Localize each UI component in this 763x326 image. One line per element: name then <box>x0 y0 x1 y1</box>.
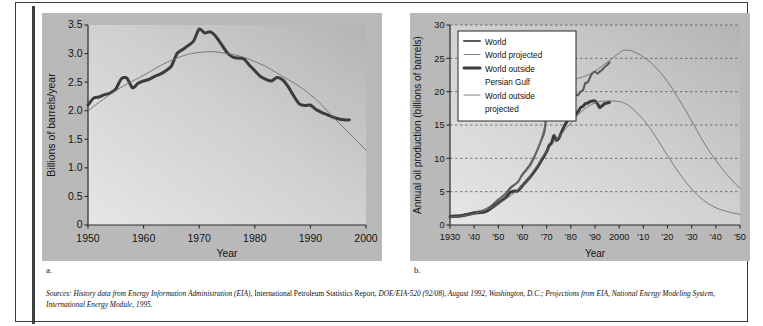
svg-text:10: 10 <box>434 154 444 164</box>
svg-text:'50: '50 <box>492 232 504 242</box>
svg-text:15: 15 <box>434 120 444 130</box>
svg-text:2.0: 2.0 <box>68 104 83 116</box>
svg-text:Year: Year <box>216 247 238 259</box>
left-vertical-rule <box>32 6 35 324</box>
svg-text:'80: '80 <box>565 232 577 242</box>
svg-text:Billions of barrels/year: Billions of barrels/year <box>45 73 57 177</box>
svg-text:'50: '50 <box>734 232 746 242</box>
svg-text:0: 0 <box>77 218 83 230</box>
svg-text:1980: 1980 <box>243 232 267 244</box>
svg-text:1.5: 1.5 <box>68 133 83 145</box>
svg-text:'30: '30 <box>686 232 698 242</box>
svg-text:5: 5 <box>439 187 444 197</box>
svg-text:0: 0 <box>439 220 444 230</box>
panel-a-caption: a. <box>46 265 52 275</box>
svg-text:2000: 2000 <box>354 232 378 244</box>
svg-text:25: 25 <box>434 54 444 64</box>
svg-text:World: World <box>485 38 507 47</box>
sources-lead: Sources: History data from Energy Inform… <box>46 289 252 298</box>
svg-text:'20: '20 <box>662 232 674 242</box>
svg-text:1990: 1990 <box>299 232 323 244</box>
svg-text:1930: 1930 <box>440 232 460 242</box>
sources-note: Sources: History data from Energy Inform… <box>46 288 746 311</box>
svg-text:0.5: 0.5 <box>68 190 83 202</box>
world-oil-production-chart: 0510152025301930'40'50'60'70'80'902000'1… <box>410 13 750 261</box>
svg-text:'60: '60 <box>517 232 529 242</box>
svg-text:World outside: World outside <box>485 65 535 74</box>
svg-text:Year: Year <box>585 248 606 259</box>
svg-text:'40: '40 <box>710 232 722 242</box>
svg-text:1950: 1950 <box>76 232 100 244</box>
figure-frame: 00.51.01.52.02.53.03.5195019601970198019… <box>15 2 748 322</box>
svg-text:3.0: 3.0 <box>68 47 83 59</box>
panel-b-caption: b. <box>414 265 421 275</box>
svg-text:3.5: 3.5 <box>68 18 83 30</box>
svg-text:20: 20 <box>434 87 444 97</box>
svg-text:Annual oil production (billion: Annual oil production (billions of barre… <box>412 36 423 214</box>
svg-text:'70: '70 <box>541 232 553 242</box>
svg-text:1960: 1960 <box>132 232 156 244</box>
svg-text:'90: '90 <box>589 232 601 242</box>
oil-discovery-chart: 00.51.01.52.02.53.03.5195019601970198019… <box>42 13 382 261</box>
svg-text:Persian Gulf: Persian Gulf <box>485 78 531 87</box>
chart-panel-a: 00.51.01.52.02.53.03.5195019601970198019… <box>42 13 382 261</box>
sources-report-title: International Petroleum Statistics Repor… <box>252 289 376 298</box>
svg-text:30: 30 <box>434 20 444 30</box>
svg-text:World projected: World projected <box>485 51 543 60</box>
svg-text:projected: projected <box>485 105 519 114</box>
svg-text:1.0: 1.0 <box>68 161 83 173</box>
chart-panel-b: 0510152025301930'40'50'60'70'80'902000'1… <box>410 13 750 261</box>
svg-text:2.5: 2.5 <box>68 76 83 88</box>
svg-text:World outside: World outside <box>485 92 535 101</box>
svg-text:2000: 2000 <box>609 232 629 242</box>
svg-text:'40: '40 <box>468 232 480 242</box>
svg-text:'10: '10 <box>637 232 649 242</box>
svg-text:1970: 1970 <box>188 232 212 244</box>
